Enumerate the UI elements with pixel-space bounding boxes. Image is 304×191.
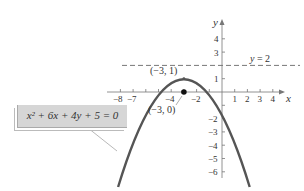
x-ticks <box>120 89 272 92</box>
parabola-curve <box>118 79 250 187</box>
x-tick-label: −7 <box>127 94 137 104</box>
x-tick-label: 2 <box>245 94 250 104</box>
y-ticks <box>222 39 225 172</box>
vertex-point <box>183 77 186 80</box>
y-axis-label: y <box>212 16 218 28</box>
y-tick-label: 3 <box>214 48 219 58</box>
x-tick-label: 4 <box>271 94 276 104</box>
y-axis-arrow-icon <box>220 19 225 25</box>
equation-box: x² + 6x + 4y + 5 = 0 <box>17 105 127 128</box>
y-tick-label: −3 <box>208 127 218 137</box>
y-tick-label: −6 <box>208 167 218 177</box>
x-axis-label: x <box>285 92 291 104</box>
y-tick-label: −4 <box>208 141 218 151</box>
y-tick-label: −5 <box>208 154 218 164</box>
parabola-chart: −8 −7 −4 −2 1 2 3 4 x y 4 3 1 −2 −3 −4 −… <box>0 0 304 191</box>
x-tick-label: −2 <box>191 94 201 104</box>
x-tick-label: 1 <box>233 94 238 104</box>
x-tick-label: 3 <box>258 94 263 104</box>
x-tick-label: −8 <box>113 94 123 104</box>
directrix-label: y = 2 <box>249 53 270 64</box>
focus-point <box>181 89 187 95</box>
equation-label: x² + 6x + 4y + 5 = 0 <box>18 109 127 121</box>
x-tick-label: −4 <box>165 94 175 104</box>
y-tick-label: 4 <box>214 34 219 44</box>
focus-leader-line <box>176 96 182 105</box>
y-tick-label: 1 <box>214 74 219 84</box>
x-axis-arrow-icon <box>279 90 285 95</box>
callout-line <box>88 128 117 151</box>
vertex-label: (−3, 1) <box>150 65 177 77</box>
focus-label: (−3, 0) <box>148 104 175 116</box>
y-tick-label: −2 <box>208 114 218 124</box>
